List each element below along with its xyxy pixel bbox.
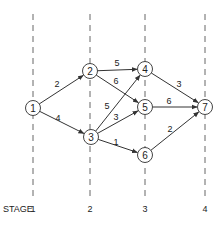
node-3: 3 (84, 130, 99, 145)
node-label: 6 (142, 150, 148, 161)
edge-3-6-weight: 1 (113, 137, 118, 147)
edge-4-to-7 (151, 73, 198, 103)
edge-1-3-weight: 4 (55, 113, 60, 123)
edge-4-7-weight: 3 (176, 79, 181, 89)
edge-3-5-weight: 3 (113, 112, 118, 122)
edge-1-to-2 (39, 75, 83, 104)
edge-2-to-4 (97, 69, 137, 70)
stage-3-label: 3 (142, 204, 147, 214)
node-label: 3 (88, 132, 94, 143)
node-6: 6 (138, 148, 153, 163)
node-4: 4 (138, 62, 153, 77)
stage-divider-lines (33, 14, 205, 198)
stage-2-label: 2 (87, 204, 92, 214)
node-label: 4 (142, 64, 148, 75)
nodes: 1234567 (26, 62, 213, 163)
edge-1-2-weight: 2 (54, 79, 59, 89)
edge-3-4-weight: 5 (104, 101, 109, 111)
stage-1-label: 1 (30, 204, 35, 214)
staged-network-diagram: 2456531362 1234567 STAGE 1234 (0, 0, 220, 225)
stage-labels: STAGE 1234 (3, 204, 208, 214)
edge-2-5-weight: 6 (113, 76, 118, 86)
edges (39, 69, 198, 152)
stage-word-label: STAGE (3, 204, 33, 214)
node-label: 1 (30, 103, 36, 114)
node-label: 7 (202, 102, 208, 113)
node-1: 1 (26, 101, 41, 116)
node-2: 2 (83, 64, 98, 79)
edge-5-7-weight: 6 (166, 96, 171, 106)
edge-1-to-3 (40, 111, 84, 133)
node-label: 2 (87, 66, 93, 77)
edge-6-7-weight: 2 (167, 124, 172, 134)
stage-4-label: 4 (202, 204, 207, 214)
node-5: 5 (138, 100, 153, 115)
edge-2-4-weight: 5 (114, 58, 119, 68)
node-label: 5 (142, 102, 148, 113)
node-7: 7 (198, 100, 213, 115)
edge-6-to-7 (151, 112, 199, 150)
